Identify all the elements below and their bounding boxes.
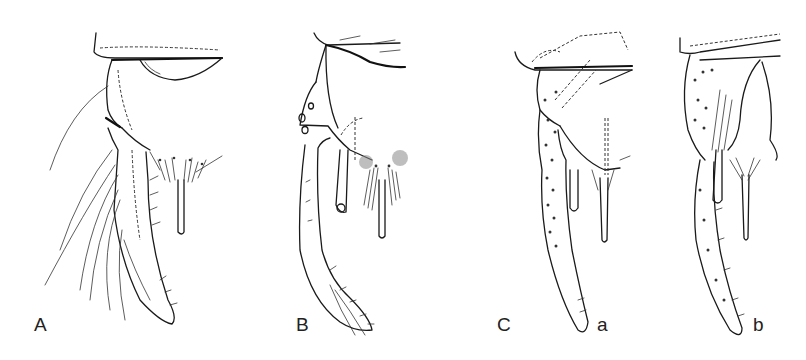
drawing-panel-b [299,33,408,335]
figure-drawings [0,0,806,360]
panel-label-a: A [34,315,47,334]
panel-label-b: B [296,315,309,334]
drawing-panel-a [45,33,222,324]
panel-label-c: C [497,315,511,334]
subpanel-label-b: b [753,315,764,334]
drawing-panel-c-b [680,34,780,335]
scientific-figure: A B C a b [0,0,806,360]
drawing-panel-c-a [515,32,632,332]
subpanel-label-a: a [597,315,608,334]
